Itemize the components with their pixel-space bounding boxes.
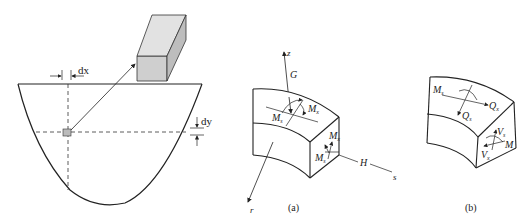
dy-dimension: dy: [190, 115, 213, 146]
shell-element-b: Ms Qx Qs Vs M Vx (b): [427, 77, 516, 214]
prism-element: [137, 15, 186, 81]
axis-z-label: z: [286, 48, 291, 58]
label-G: G: [290, 69, 297, 80]
axis-s-label: s: [393, 172, 397, 182]
shear-label-qx: Qx: [489, 100, 499, 112]
moment-label-m: M: [504, 139, 514, 150]
force-label-vs: Vs: [497, 126, 506, 138]
caption-b: (b): [465, 202, 477, 214]
shell-element-a: z G Mx Ms Mx Ms H s r (a): [248, 48, 397, 215]
axis-r-label: r: [250, 205, 254, 215]
force-label-vx: Vx: [481, 149, 490, 161]
diagram-canvas: dx dy z G Mx Ms Mx: [0, 0, 531, 224]
dx-dimension: dx: [50, 64, 90, 80]
parabolic-section: dx dy: [18, 15, 213, 205]
differential-element: [63, 129, 71, 136]
label-H: H: [359, 157, 368, 168]
shear-label-qs: Qs: [462, 110, 472, 122]
dy-label: dy: [201, 115, 213, 127]
dx-label: dx: [78, 64, 90, 76]
moment-label-ms: Ms: [432, 84, 444, 96]
caption-a: (a): [288, 202, 299, 214]
